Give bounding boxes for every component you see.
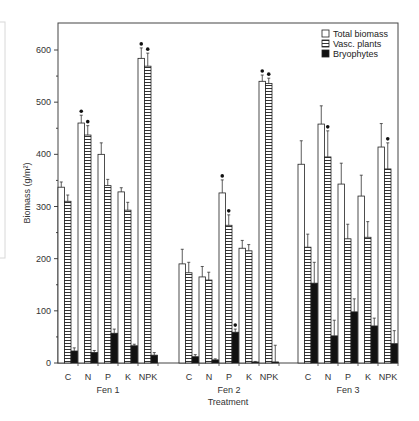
bar-vasc-plantsfen1-k	[125, 210, 132, 363]
bar-bryophytesfen3-n	[331, 336, 338, 363]
legend-swatch	[322, 50, 329, 57]
significance-dot	[79, 109, 83, 113]
bar-vasc-plantsfen3-k	[365, 237, 372, 363]
bar-total-biomassfen1-npk	[138, 58, 145, 363]
bars	[58, 42, 398, 363]
bar-vasc-plantsfen3-p	[345, 239, 352, 363]
bar-total-biomassfen3-npk	[378, 147, 385, 363]
significance-dot	[267, 72, 271, 76]
x-tick-label: N	[85, 372, 92, 382]
significance-dot	[220, 174, 224, 178]
y-tick-label: 600	[36, 45, 51, 55]
x-tick-label: N	[206, 372, 213, 382]
bar-total-biomassfen1-p	[98, 154, 105, 363]
biomass-bar-chart: 0100200300400500600 CNPKNPKFen 1CNPKNPKF…	[0, 0, 419, 421]
significance-dot	[386, 137, 390, 141]
bar-bryophytesfen3-p	[351, 312, 358, 363]
significance-dot	[139, 42, 143, 46]
x-tick-label: P	[105, 372, 111, 382]
significance-dot	[260, 69, 264, 73]
group-label: Fen 1	[96, 385, 119, 395]
bar-bryophytesfen2-n	[212, 360, 219, 363]
y-tick-label: 300	[36, 202, 51, 212]
x-tick-label: C	[186, 372, 193, 382]
legend-label: Bryophytes	[333, 49, 379, 59]
group-label: Fen 3	[336, 385, 359, 395]
bar-vasc-plantsfen2-k	[246, 251, 253, 363]
x-tick-label: NPK	[260, 372, 279, 382]
bar-vasc-plantsfen2-n	[206, 280, 213, 363]
x-axis: CNPKNPKFen 1CNPKNPKFen 2CNPKNPKFen 3	[65, 363, 398, 395]
bar-total-biomassfen1-c	[58, 187, 65, 363]
bar-vasc-plantsfen3-n	[325, 157, 332, 363]
y-axis: 0100200300400500600	[36, 45, 58, 368]
bar-bryophytesfen1-npk	[151, 355, 158, 363]
legend: Total biomassVasc. plantsBryophytes	[322, 29, 389, 59]
bar-total-biomassfen3-p	[338, 184, 345, 363]
bar-bryophytesfen1-c	[71, 351, 78, 363]
bar-bryophytesfen3-k	[371, 326, 378, 363]
legend-label: Vasc. plants	[333, 39, 382, 49]
significance-dot	[146, 47, 150, 51]
significance-dot	[227, 209, 231, 213]
bar-vasc-plantsfen1-c	[65, 201, 72, 363]
bar-bryophytesfen1-k	[131, 346, 138, 363]
bar-total-biomassfen2-npk	[259, 81, 266, 363]
bar-total-biomassfen2-p	[219, 193, 226, 363]
x-tick-label: NPK	[379, 372, 398, 382]
bar-bryophytesfen1-n	[91, 353, 98, 363]
legend-swatch	[322, 40, 329, 47]
legend-label: Total biomass	[333, 29, 389, 39]
y-tick-label: 400	[36, 149, 51, 159]
bar-vasc-plantsfen3-c	[305, 247, 312, 363]
x-tick-label: N	[325, 372, 332, 382]
x-tick-label: C	[65, 372, 72, 382]
significance-dot	[326, 125, 330, 129]
bar-bryophytesfen2-k	[252, 362, 259, 363]
bar-total-biomassfen3-c	[298, 164, 305, 363]
y-tick-label: 200	[36, 254, 51, 264]
bar-bryophytesfen2-c	[192, 357, 199, 363]
x-tick-label: K	[246, 372, 252, 382]
x-axis-title: Treatment	[208, 397, 249, 407]
bar-total-biomassfen2-c	[179, 264, 186, 363]
bar-bryophytesfen2-npk	[272, 362, 279, 363]
y-axis-title: Biomass (g/m²)	[22, 162, 32, 223]
bar-vasc-plantsfen1-npk	[145, 66, 152, 363]
bar-vasc-plantsfen1-p	[105, 186, 112, 363]
legend-swatch	[322, 30, 329, 37]
bar-bryophytesfen3-npk	[391, 344, 398, 363]
bar-vasc-plantsfen3-npk	[385, 169, 392, 363]
bar-total-biomassfen3-k	[358, 196, 365, 363]
bar-total-biomassfen3-n	[318, 124, 325, 363]
side-panel-frame	[0, 22, 5, 258]
x-tick-label: K	[365, 372, 371, 382]
y-tick-label: 0	[46, 358, 51, 368]
bar-total-biomassfen1-n	[78, 123, 85, 363]
bar-bryophytesfen3-c	[311, 283, 318, 363]
bar-bryophytesfen1-p	[111, 333, 118, 363]
significance-dot	[86, 120, 90, 124]
y-tick-label: 500	[36, 97, 51, 107]
x-tick-label: K	[125, 372, 131, 382]
bar-bryophytesfen2-p	[232, 332, 239, 363]
group-label: Fen 2	[217, 385, 240, 395]
bar-total-biomassfen1-k	[118, 192, 125, 363]
x-tick-label: C	[305, 372, 312, 382]
y-tick-label: 100	[36, 306, 51, 316]
bar-total-biomassfen2-k	[239, 248, 246, 363]
x-tick-label: P	[226, 372, 232, 382]
bar-vasc-plantsfen2-p	[226, 225, 233, 363]
x-tick-label: NPK	[139, 372, 158, 382]
bar-total-biomassfen2-n	[199, 277, 206, 363]
bar-vasc-plantsfen1-n	[85, 135, 92, 363]
bar-vasc-plantsfen2-c	[186, 273, 193, 363]
significance-dot	[233, 323, 237, 327]
x-tick-label: P	[345, 372, 351, 382]
bar-vasc-plantsfen2-npk	[266, 83, 273, 363]
